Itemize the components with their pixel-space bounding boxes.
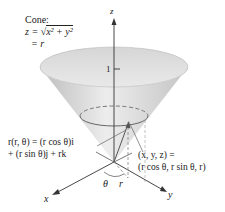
theta-label: θ [103, 178, 108, 189]
cone-title: Cone: [25, 14, 49, 25]
radius-label: r [119, 178, 123, 189]
vector-equation-line1: r(r, θ) = (r cos θ)i [8, 137, 74, 148]
cone-equation-lhs: z = [25, 26, 41, 37]
y-axis-arrowhead [160, 186, 167, 192]
point-label-line1: (x, y, z) = [138, 150, 175, 161]
vector-equation-line2: + (r sin θ)j + rk [8, 149, 66, 160]
theta-arc [104, 172, 124, 177]
cone-equation-r: = r [31, 38, 44, 49]
cone-equation-radicand: x² + y² [46, 25, 73, 37]
x-axis-label: x [44, 193, 48, 204]
y-axis-label: y [168, 189, 172, 200]
point-label-line2: (r cos θ, r sin θ, r) [138, 162, 206, 173]
cone-equation: z = √x² + y² [25, 26, 73, 37]
z-axis-label: z [110, 6, 114, 17]
x-axis-arrowhead [52, 189, 60, 195]
z-tick-label-1: 1 [106, 64, 111, 75]
z-axis-arrowhead [112, 18, 117, 25]
